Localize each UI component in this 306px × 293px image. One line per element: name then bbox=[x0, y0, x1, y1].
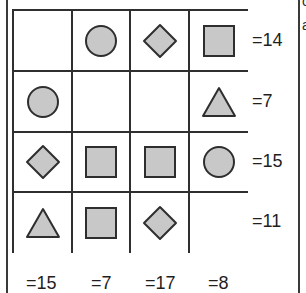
grid-cell-r3-c4 bbox=[190, 133, 248, 193]
grid-cell-r4-c3 bbox=[131, 193, 190, 253]
row-sum-label-2: =7 bbox=[252, 92, 273, 110]
shape-puzzle-grid bbox=[12, 9, 248, 253]
grid-cell-r1-c3 bbox=[131, 11, 190, 72]
grid-cell-r4-c2 bbox=[73, 193, 131, 253]
column-sum-label-4: =8 bbox=[208, 274, 229, 292]
column-sum-label-3: =17 bbox=[145, 274, 176, 292]
circle-icon bbox=[84, 24, 118, 58]
grid-cell-r3-c3 bbox=[131, 133, 190, 193]
diamond-icon bbox=[142, 23, 178, 59]
grid-cell-r4-c4 bbox=[190, 193, 248, 253]
grid-cell-r2-c4 bbox=[190, 72, 248, 133]
circle-icon bbox=[26, 85, 60, 119]
grid-cell-r2-c3 bbox=[131, 72, 190, 133]
grid-cell-r3-c1 bbox=[14, 133, 73, 193]
row-sum-label-1: =14 bbox=[252, 31, 283, 49]
square-icon bbox=[202, 24, 236, 58]
diamond-icon bbox=[142, 205, 178, 241]
square-icon bbox=[84, 145, 118, 179]
row-sum-label-4: =11 bbox=[252, 212, 281, 230]
grid-cell-r2-c1 bbox=[14, 72, 73, 133]
frame-border-left bbox=[6, 0, 8, 293]
column-sum-label-1: =15 bbox=[26, 274, 57, 292]
grid-cell-r2-c2 bbox=[73, 72, 131, 133]
clipped-text-fragment: a bbox=[302, 18, 306, 32]
row-sum-label-3: =15 bbox=[252, 152, 283, 170]
circle-icon bbox=[202, 145, 236, 179]
triangle-icon bbox=[201, 86, 237, 118]
triangle-icon bbox=[25, 207, 61, 239]
diamond-icon bbox=[25, 144, 61, 180]
column-sum-label-2: =7 bbox=[91, 274, 112, 292]
grid-cell-r3-c2 bbox=[73, 133, 131, 193]
grid-cell-r1-c4 bbox=[190, 11, 248, 72]
frame-border-right bbox=[298, 0, 300, 293]
grid-cell-r1-c1 bbox=[14, 11, 73, 72]
square-icon bbox=[143, 145, 177, 179]
square-icon bbox=[84, 206, 118, 240]
grid-cell-r4-c1 bbox=[14, 193, 73, 253]
clipped-text-fragment: c bbox=[302, 0, 306, 8]
grid-cell-r1-c2 bbox=[73, 11, 131, 72]
